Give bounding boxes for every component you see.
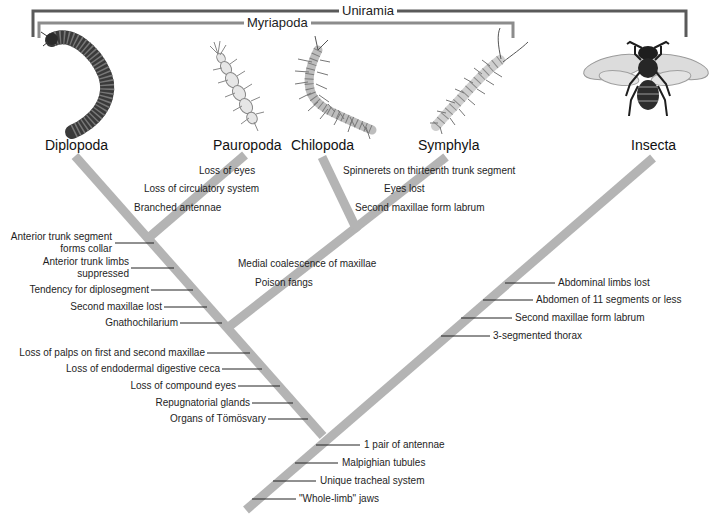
taxon-insecta: Insecta [631, 137, 676, 153]
character-label: Spinnerets on thirteenth trunk segment [343, 165, 515, 177]
character-label: Medial coalescence of maxillae [238, 258, 376, 270]
centipede-illustration [295, 36, 372, 139]
taxon-diplopoda: Diplopoda [45, 137, 108, 153]
character-label: Gnathochilarium [105, 317, 178, 329]
character-label: Organs of Tömösvary [170, 413, 266, 425]
character-label: Eyes lost [384, 183, 425, 195]
character-label: Poison fangs [255, 277, 313, 289]
character-label: Loss of palps on first and second maxill… [19, 347, 205, 359]
character-label: "Whole-limb" jaws [299, 493, 379, 505]
group-label-myriapoda: Myriapoda [244, 16, 311, 30]
character-label: Unique tracheal system [320, 475, 425, 487]
symphylan-illustration [430, 28, 528, 134]
character-label: Tendency for diplosegment [29, 284, 149, 296]
millipede-illustration [41, 32, 107, 132]
character-label: Branched antennae [134, 202, 221, 214]
group-label-uniramia: Uniramia [339, 4, 397, 18]
character-label: Loss of compound eyes [130, 380, 236, 392]
pauropod-illustration [210, 41, 264, 131]
character-label: Second maxillae lost [70, 301, 162, 313]
character-label: Repugnatorial glands [155, 397, 250, 409]
character-label: 3-segmented thorax [493, 330, 582, 342]
character-label: Loss of endodermal digestive ceca [66, 363, 220, 375]
character-label: Second maxillae form labrum [515, 312, 645, 324]
character-label-multiline: Anterior trunk segment forms collar [11, 231, 112, 255]
cladogram: Uniramia Myriapoda Diplopoda Pauropoda C… [0, 0, 723, 518]
character-label: Abdominal limbs lost [558, 277, 650, 289]
character-label: Loss of circulatory system [144, 183, 259, 195]
taxon-pauropoda: Pauropoda [213, 137, 282, 153]
character-label: Second maxillae form labrum [355, 202, 485, 214]
character-label: Malpighian tubules [342, 457, 425, 469]
character-label: Abdomen of 11 segments or less [536, 294, 681, 306]
bee-illustration [581, 42, 710, 116]
taxon-chilopoda: Chilopoda [291, 137, 354, 153]
character-label: Loss of eyes [199, 165, 255, 177]
character-label-multiline: Anterior trunk limbs suppressed [43, 256, 129, 280]
character-label: 1 pair of antennae [364, 439, 445, 451]
taxon-symphyla: Symphyla [418, 137, 479, 153]
